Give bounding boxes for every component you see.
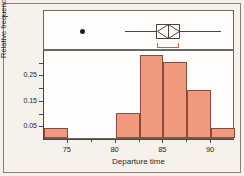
x-axis-tick-label: 75 bbox=[63, 145, 71, 154]
histogram-bar bbox=[44, 128, 68, 138]
y-axis-tick bbox=[39, 126, 43, 127]
histogram-bar bbox=[187, 90, 211, 138]
y-axis-label-wrapper: Relative frequency bbox=[0, 58, 74, 70]
y-axis-tick bbox=[39, 114, 43, 115]
x-axis-label: Departure time bbox=[43, 157, 234, 167]
y-axis-tick bbox=[39, 101, 43, 102]
histogram-bar bbox=[211, 128, 235, 138]
x-axis-tick-label: 80 bbox=[110, 145, 118, 154]
x-axis-tick bbox=[162, 139, 163, 143]
x-axis-tick bbox=[115, 139, 116, 143]
boxplot-panel bbox=[43, 10, 234, 50]
x-axis-tick-label: 90 bbox=[206, 145, 214, 154]
x-axis-tick bbox=[67, 139, 68, 143]
y-axis-tick-label: 0.15 bbox=[8, 97, 37, 104]
y-axis-label: Relative frequency bbox=[0, 0, 10, 58]
confidence-interval-bracket bbox=[157, 43, 179, 48]
y-axis-tick-label: 0.05 bbox=[8, 122, 37, 129]
y-axis-tick bbox=[39, 75, 43, 76]
boxplot-outlier-point bbox=[80, 29, 85, 34]
histogram-bar bbox=[116, 113, 140, 138]
x-axis-tick-label: 85 bbox=[158, 145, 166, 154]
boxplot-median-line bbox=[168, 24, 169, 39]
figure-container: 0.050.150.25 75808590 Relative frequency… bbox=[0, 0, 244, 176]
x-axis-tick bbox=[210, 139, 211, 143]
y-axis-tick bbox=[39, 88, 43, 89]
x-axis-minor-tick bbox=[186, 139, 187, 142]
histogram-bar bbox=[140, 55, 164, 138]
y-axis-tick-label: 0.25 bbox=[8, 71, 37, 78]
histogram-bar bbox=[163, 62, 187, 138]
x-axis-minor-tick bbox=[139, 139, 140, 142]
x-axis-minor-tick bbox=[91, 139, 92, 142]
